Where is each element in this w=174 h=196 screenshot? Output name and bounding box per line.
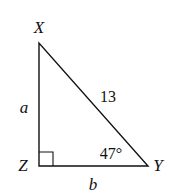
side-label-b: b: [89, 175, 98, 194]
vertex-label-x: X: [33, 18, 45, 37]
side-label-hypotenuse: 13: [100, 88, 116, 105]
vertex-label-z: Z: [18, 156, 28, 175]
triangle-diagram: X Z Y a b 13 47°: [0, 0, 174, 196]
triangle-xyz: [39, 43, 148, 166]
vertex-label-y: Y: [153, 156, 164, 175]
right-angle-marker: [39, 152, 53, 166]
angle-label-y: 47°: [100, 145, 122, 162]
side-label-a: a: [20, 98, 29, 117]
